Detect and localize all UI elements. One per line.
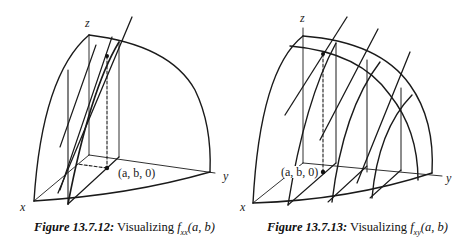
surface-point-marker <box>321 52 325 56</box>
base-point-marker <box>321 170 325 174</box>
slice-curve-3 <box>372 95 412 198</box>
z-axis-label: z <box>85 17 90 29</box>
x-axis-label: x <box>240 201 245 213</box>
slice-curve-2 <box>332 62 380 202</box>
caption-text: Visualizing <box>114 220 177 234</box>
point-label: (a, b, 0) <box>118 167 155 179</box>
surface-diagram-fxx <box>0 0 240 241</box>
figure-caption: Figure 13.7.12: Visualizing fxx(a, b) <box>34 220 215 237</box>
y-axis-label: y <box>446 172 451 184</box>
y-axis-label: y <box>223 170 228 182</box>
figure-number: Figure 13.7.13: <box>267 220 347 234</box>
caption-args: (a, b) <box>421 220 448 234</box>
caption-subscript: xy <box>414 228 421 237</box>
x-axis <box>34 155 89 201</box>
tangent-line-3 <box>357 52 410 183</box>
point-label: (a, b, 0) <box>281 166 318 178</box>
z-axis-label: z <box>300 12 305 24</box>
base-point-marker <box>105 166 109 170</box>
tangent-line-3 <box>60 45 96 147</box>
trace-curve-x <box>290 46 418 180</box>
x-axis-label: x <box>20 201 25 213</box>
figure-13-7-13: z x y (a, b, 0) Figure 13.7.13: Visualiz… <box>240 0 473 241</box>
surface-diagram-fxy <box>240 0 473 241</box>
figure-caption: Figure 13.7.13: Visualizing fxy(a, b) <box>267 220 448 237</box>
surface-edge-xz <box>34 35 89 201</box>
caption-subscript: xx <box>181 228 188 237</box>
figure-13-7-12: z x y (a, b, 0) Figure 13.7.12: Visualiz… <box>0 0 240 241</box>
dashed-horizontal <box>77 164 107 168</box>
tangent-line-1 <box>285 17 347 115</box>
surface-point-marker <box>105 54 109 58</box>
caption-text: Visualizing <box>347 220 410 234</box>
figure-number: Figure 13.7.12: <box>34 220 114 234</box>
caption-args: (a, b) <box>188 220 215 234</box>
